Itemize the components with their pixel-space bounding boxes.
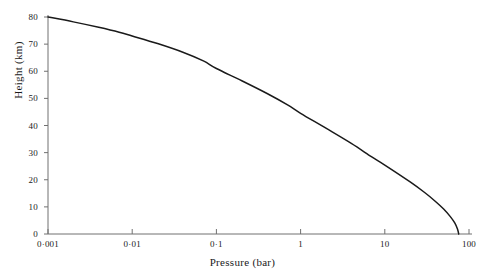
x-axis-tick-label: 100 [462,239,476,249]
x-axis-tick-label: 10 [380,239,389,249]
y-axis-tick-label: 10 [6,202,38,212]
x-axis-tick-label: 1 [298,239,303,249]
x-axis-ticks [48,229,469,234]
x-axis-tick-label: 0·001 [37,239,59,249]
x-axis-title: Pressure (bar) [0,256,485,268]
y-axis-tick-label: 30 [6,148,38,158]
y-axis-ticks [44,17,48,234]
axis-lines [48,15,472,234]
chart-figure: 01020304050607080 0·0010·010·1110100 Hei… [0,0,485,280]
x-axis-tick-label: 0·01 [124,239,141,249]
y-axis-title: Height (km) [12,10,24,130]
plot-area [0,0,485,280]
x-axis-tick-label: 0·1 [210,239,223,249]
y-axis-tick-label: 20 [6,175,38,185]
pressure-height-curve [48,17,459,234]
y-axis-tick-label: 0 [6,229,38,239]
